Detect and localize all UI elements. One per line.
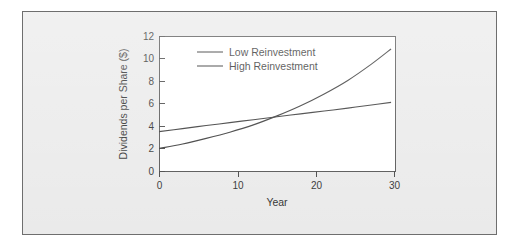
legend-label-low: Low Reinvestment (229, 46, 315, 58)
y-tick-label-2: 2 (148, 143, 154, 154)
y-tick-label-8: 8 (148, 76, 154, 87)
figure-panel: 12 10 8 6 4 2 0 Dividends per Share ($) (22, 11, 497, 235)
x-axis: 0 10 20 30 (157, 171, 401, 191)
x-tick-label-30: 30 (389, 180, 401, 191)
y-axis-title: Dividends per Share ($) (117, 49, 129, 160)
chart-area: 12 10 8 6 4 2 0 Dividends per Share ($) (23, 12, 498, 236)
y-tick-label-0: 0 (148, 166, 154, 177)
x-tick-label-10: 10 (232, 180, 244, 191)
x-axis-title: Year (266, 196, 288, 208)
y-tick-label-4: 4 (148, 121, 154, 132)
x-tick-label-20: 20 (311, 180, 323, 191)
line-chart: 12 10 8 6 4 2 0 Dividends per Share ($) (23, 12, 498, 236)
y-tick-label-6: 6 (148, 98, 154, 109)
y-tick-label-10: 10 (143, 53, 155, 64)
x-tick-label-0: 0 (157, 180, 163, 191)
legend-label-high: High Reinvestment (229, 60, 318, 72)
y-tick-label-12: 12 (143, 31, 155, 42)
